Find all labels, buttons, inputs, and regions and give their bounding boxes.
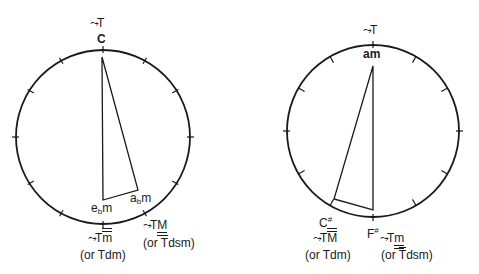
left-triad-triangle: [102, 57, 138, 200]
right-pitch-circle: [283, 41, 463, 221]
double-overline-mark: M: [327, 232, 337, 245]
right-top-pitch-label: am: [363, 48, 380, 61]
right-bottomleft-transform-label: ⤳TM: [313, 232, 337, 245]
left-bottom-alt-label: (or Tdm): [80, 249, 126, 262]
squiggle-arrow-icon: ⤳: [363, 24, 370, 36]
squiggle-arrow-icon: ⤳: [380, 232, 387, 244]
left-bottomright-transform-label: ⤳TM: [143, 219, 167, 232]
diagram-canvas: [0, 0, 479, 274]
double-underline-mark: M: [157, 219, 167, 232]
left-ebm-label: ebm: [91, 202, 112, 218]
right-bottomright-transform-label: ⤳Tm: [380, 232, 404, 245]
right-triad-triangle: [334, 66, 373, 210]
right-bottomleft-alt-label: (or Tdm): [305, 249, 351, 262]
squiggle-arrow-icon: ⤳: [313, 232, 320, 244]
left-bottom-transform-label: ⤳Tm: [88, 232, 112, 245]
right-top-transform-label: ⤳T: [363, 24, 377, 37]
right-fsharp-label: F#: [367, 224, 379, 241]
squiggle-arrow-icon: ⤳: [88, 232, 95, 244]
double-overline-mark: m: [102, 232, 112, 245]
left-top-transform-label: ⤳T: [90, 17, 104, 30]
double-underline-mark: m: [394, 232, 404, 245]
squiggle-arrow-icon: ⤳: [143, 219, 150, 231]
left-abm-label: abm: [130, 192, 151, 208]
left-bottomright-alt-label: (or Tdsm): [143, 237, 195, 250]
right-bottomright-alt-label: (or Tdsm): [381, 249, 433, 262]
left-top-pitch-label: C: [97, 33, 106, 46]
squiggle-arrow-icon: ⤳: [90, 17, 97, 29]
